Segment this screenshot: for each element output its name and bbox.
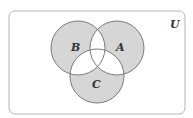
venn-diagram: U B A C — [0, 0, 193, 118]
label-u: U — [170, 18, 181, 31]
label-b: B — [70, 41, 80, 54]
label-c: C — [92, 78, 101, 91]
label-a: A — [115, 41, 125, 54]
